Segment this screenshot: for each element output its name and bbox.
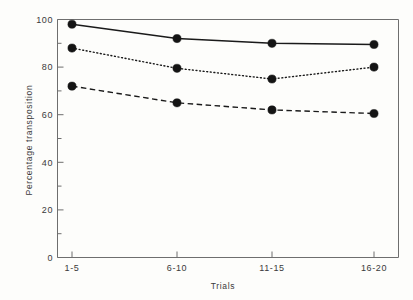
y-tick-label-0: 0: [47, 253, 53, 263]
y-tick-label-20: 20: [42, 205, 53, 215]
chart-figure: 0 20 40 60 80 100 1-5 6-10 11-15 16-20 T…: [0, 0, 413, 300]
x-axis-title: Trials: [211, 281, 236, 291]
data-point: [68, 44, 76, 52]
series-dashed-series: [68, 82, 378, 118]
data-point: [268, 106, 276, 114]
data-point: [370, 63, 378, 71]
series-solid-series: [68, 20, 378, 48]
x-tick-label-16-20: 16-20: [361, 263, 387, 273]
y-tick-label-80: 80: [42, 62, 53, 72]
data-point: [268, 39, 276, 47]
x-tick-label-6-10: 6-10: [167, 263, 187, 273]
series-line-dotted: [72, 48, 374, 79]
series-dotted-series: [68, 44, 378, 83]
y-tick-label-60: 60: [42, 110, 53, 120]
y-tick-label-100: 100: [36, 15, 53, 25]
x-tick-label-1-5: 1-5: [65, 263, 80, 273]
x-axis-ticks: [72, 252, 374, 258]
line-chart: 0 20 40 60 80 100 1-5 6-10 11-15 16-20 T…: [0, 0, 413, 300]
data-point: [268, 75, 276, 83]
series-line-dashed: [72, 86, 374, 113]
x-tick-label-11-15: 11-15: [259, 263, 284, 273]
y-axis-minor-ticks: [58, 43, 62, 233]
series-layer: [68, 20, 378, 117]
series-line-solid: [72, 24, 374, 44]
y-axis-title: Percentage transposition: [24, 85, 34, 196]
data-point: [68, 82, 76, 90]
y-tick-label-40: 40: [42, 158, 53, 168]
data-point: [173, 64, 181, 72]
data-point: [173, 99, 181, 107]
data-point: [370, 40, 378, 48]
data-point: [68, 20, 76, 28]
data-point: [370, 109, 378, 117]
data-point: [173, 34, 181, 42]
